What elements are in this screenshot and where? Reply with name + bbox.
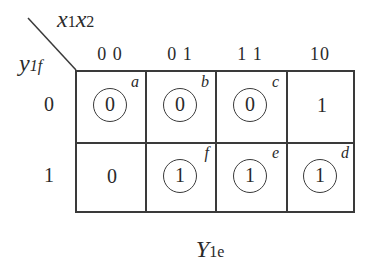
cell-row1-col00: 0 bbox=[77, 143, 147, 215]
map-title: Y1e bbox=[150, 236, 270, 263]
column-header-10: 10 bbox=[285, 44, 355, 65]
cell-value: 1 bbox=[287, 94, 357, 117]
cell-f: 1 f bbox=[147, 143, 217, 215]
row-variable-label: y1f bbox=[19, 50, 42, 77]
column-header-00: 0 0 bbox=[75, 44, 145, 65]
cell-e: 1 e bbox=[217, 143, 287, 215]
cell-label: e bbox=[272, 144, 279, 162]
row-header-0: 0 bbox=[34, 93, 64, 116]
column-header-11: 1 1 bbox=[215, 44, 285, 65]
cell-label: a bbox=[131, 73, 139, 91]
cell-label: c bbox=[272, 73, 279, 91]
column-header-01: 0 1 bbox=[145, 44, 215, 65]
circled-value: 0 bbox=[233, 88, 267, 122]
circled-value: 0 bbox=[163, 88, 197, 122]
cell-label: f bbox=[205, 144, 209, 162]
cell-value: 0 bbox=[77, 165, 147, 188]
circled-value: 1 bbox=[303, 159, 337, 193]
cell-d: 1 d bbox=[287, 143, 357, 215]
row-header-1: 1 bbox=[34, 164, 64, 187]
cell-label: b bbox=[201, 73, 209, 91]
circled-value: 0 bbox=[93, 88, 127, 122]
column-variables-label: x1x2 bbox=[57, 6, 94, 33]
cell-row0-col10: 1 bbox=[287, 72, 357, 144]
circled-value: 1 bbox=[233, 159, 267, 193]
circled-value: 1 bbox=[163, 159, 197, 193]
karnaugh-grid: 0 a 0 b 0 c 1 0 1 f 1 e 1 d bbox=[75, 70, 355, 213]
cell-b: 0 b bbox=[147, 72, 217, 144]
cell-a: 0 a bbox=[77, 72, 147, 144]
cell-c: 0 c bbox=[217, 72, 287, 144]
cell-label: d bbox=[341, 144, 349, 162]
